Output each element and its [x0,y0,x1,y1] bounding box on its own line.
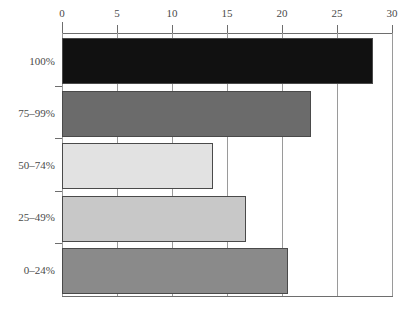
x-tick-label-30: 30 [387,8,398,19]
plot-bottom-line [62,296,393,297]
x-tick-label-25: 25 [332,8,343,19]
y-category-label-25-49: 25–49% [18,212,55,223]
plot-area [62,33,392,296]
y-category-label-0-24: 0–24% [24,265,55,276]
bar-0-24[interactable] [62,248,288,294]
x-tick-label-10: 10 [167,8,178,19]
x-tick-label-15: 15 [222,8,233,19]
y-category-label-50-74: 50–74% [18,160,55,171]
gridline-30 [392,33,393,296]
bar-75-99[interactable] [62,91,311,137]
y-category-label-75-99: 75–99% [18,108,55,119]
bar-100[interactable] [62,38,373,84]
bar-chart: 0 5 10 15 20 25 30 100% 75–99% 50–74% 25… [0,0,410,311]
y-category-label-100: 100% [29,56,55,67]
x-tick-label-0: 0 [59,8,65,19]
x-tick-label-20: 20 [277,8,288,19]
bar-25-49[interactable] [62,196,246,242]
x-tick-label-5: 5 [114,8,120,19]
bar-50-74[interactable] [62,143,213,189]
